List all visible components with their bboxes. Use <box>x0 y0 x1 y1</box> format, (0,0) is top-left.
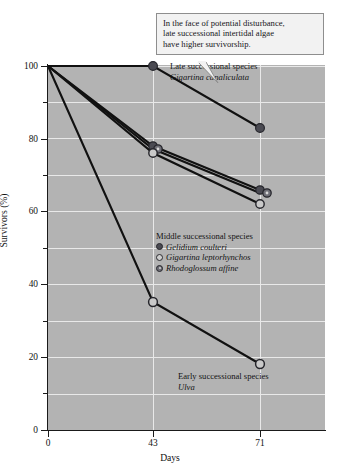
figure: In the face of potential disturbance, la… <box>0 0 340 472</box>
callout-line-2: late successional intertidal algae <box>163 28 318 38</box>
callout-line-1: In the face of potential disturbance, <box>163 18 318 28</box>
callout-line-3: have higher survivorship. <box>163 39 318 49</box>
callout-box: In the face of potential disturbance, la… <box>156 13 324 55</box>
callout-pointer <box>0 0 340 472</box>
